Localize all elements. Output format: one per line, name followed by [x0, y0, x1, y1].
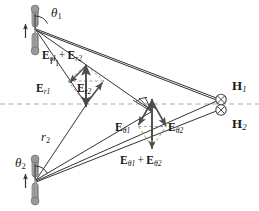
vector-Etheta2-arrow: [152, 101, 166, 126]
ray-top-to-H2: [36, 31, 219, 102]
label-Er1: Er1: [36, 83, 50, 95]
vector-Er1-arrow: [70, 66, 87, 83]
label-H2: H2: [232, 117, 246, 131]
label-r2: r2: [41, 131, 50, 145]
diagram-canvas: [0, 0, 259, 211]
label-Er2: Er2: [77, 83, 91, 95]
label-Etheta-sum: Eθ1 + Eθ2: [120, 155, 161, 167]
label-Etheta2: Eθ2: [168, 122, 183, 134]
ray-top-to-H1: [36, 29, 219, 99]
observation-point-H1: [216, 94, 226, 104]
label-theta2-text: θ2: [15, 155, 26, 170]
ray-bottom-to-H1: [36, 100, 219, 181]
ray-bottom-to-lower-point: [36, 112, 151, 180]
label-theta1: θ1: [51, 6, 62, 20]
label-Er-sum: Er1 + Er2: [42, 50, 82, 62]
label-Etheta1: Eθ1: [115, 122, 130, 134]
observation-point-H2: [216, 105, 226, 115]
ray-top-to-lower-point: [36, 30, 151, 110]
ray-bottom-to-H2: [36, 110, 219, 182]
antenna-field-diagram: θ1 θ2 r1 r2 Er1 + Er2 Er1 Er2 Eθ1 Eθ2 Eθ…: [0, 0, 259, 211]
label-H1: H1: [232, 79, 246, 93]
lower-vector-group: [133, 97, 166, 149]
rays-from-top-dipole: [36, 29, 219, 110]
rays-from-bottom-dipole: [36, 100, 219, 182]
label-r2-text: r2: [41, 130, 50, 144]
label-theta1-text: θ1: [51, 5, 62, 20]
label-theta2: θ2: [15, 156, 26, 170]
